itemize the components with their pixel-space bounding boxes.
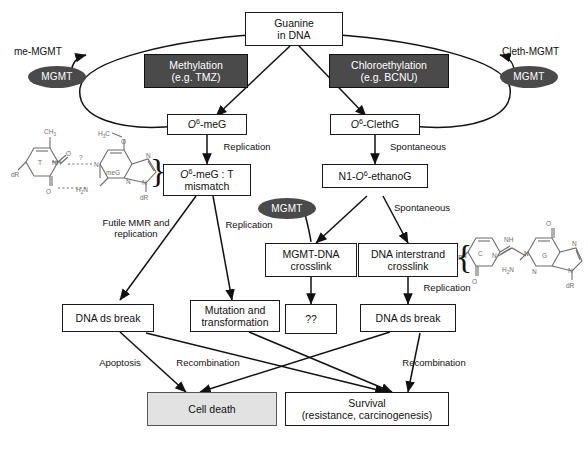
chem-left-methoxy-o: O (121, 138, 126, 145)
ethanog-pre: N1- (339, 170, 356, 182)
node-unknown: ?? (285, 304, 337, 334)
futile-mmr-line2: replication (114, 228, 157, 239)
mgmt-middle-label: MGMT (271, 203, 302, 215)
node-methylation: Methylation (e.g. TMZ) (144, 54, 248, 88)
enzyme-mgmt-right: MGMT (500, 66, 558, 88)
chem-right-brace: { (456, 238, 472, 276)
mgmt-crosslink-line1: MGMT-DNA (282, 248, 339, 260)
chem-left-methyl: CH3 (44, 128, 56, 137)
node-mgmt-dna-crosslink: MGMT-DNA crosslink (265, 243, 357, 277)
chem-left-methoxy: H3C (98, 130, 110, 139)
mutation-line2: transformation (201, 316, 268, 328)
edge-label-futile-mmr: Futile MMR and replication (88, 218, 184, 240)
chem-left-n3: N (126, 178, 131, 185)
chem-right-n9: N (568, 267, 573, 274)
chem-right-nh: NH (504, 236, 514, 243)
chem-right-cytosine: C (478, 250, 483, 257)
chem-left-thymine: T (38, 159, 42, 166)
chem-left-query: ? (79, 154, 83, 161)
ethanog-label: N1-O6-ethanoG (339, 170, 412, 182)
chem-right-oxygen-c: O (472, 278, 477, 285)
mgmt-crosslink-line2: crosslink (291, 260, 332, 272)
chem-right-svg: NH C N N dR O N G O N N dR H2N N (458, 218, 586, 312)
chem-right-n1c: N (492, 252, 497, 259)
chem-left-oxygen-top: O (66, 150, 71, 157)
survival-line1: Survival (348, 397, 385, 409)
mutation-line1: Mutation and (205, 304, 266, 316)
guanine-line2: in DNA (277, 29, 310, 41)
edge-label-apoptosis: Apoptosis (86, 358, 154, 369)
chem-left-amine: H2N (76, 186, 88, 195)
ethanog-o: O (356, 170, 364, 182)
interstrand-line1: DNA interstrand (371, 248, 445, 260)
o6-meg-o: O (188, 118, 196, 130)
chem-structure-interstrand-crosslink: NH C N N dR O N G O N N dR H2N N (458, 218, 586, 312)
chloroethylation-line1: Chloroethylation (351, 59, 427, 71)
chem-right-amine: H2N (502, 266, 514, 275)
chem-right-guanine: G (542, 252, 547, 259)
node-cell-death: Cell death (147, 392, 277, 426)
chem-right-n1g: N (524, 250, 529, 257)
chem-left-oxygen-bottom: O (46, 188, 51, 195)
chem-right-oxygen-g: O (546, 220, 551, 227)
label-cleth-mgmt: Cleth-MGMT (502, 46, 559, 57)
label-me-mgmt: me-MGMT (14, 46, 62, 57)
chem-right-dr-right: dR (566, 282, 575, 289)
chloroethylation-line2: (e.g. BCNU) (360, 71, 417, 83)
node-o6-clethg: O6-ClethG (330, 114, 420, 135)
enzyme-mgmt-left: MGMT (28, 66, 86, 88)
guanine-line1: Guanine (274, 17, 314, 29)
chem-left-brace: } (150, 152, 166, 190)
o6-clethg-suffix: -ClethG (363, 118, 399, 130)
node-n1-o6-ethanog: N1-O6-ethanoG (322, 164, 428, 188)
chem-left-dr: dR (11, 171, 20, 178)
methylation-line1: Methylation (169, 59, 223, 71)
node-guanine-in-dna: Guanine in DNA (245, 12, 343, 46)
o6-clethg-label: O6-ClethG (351, 118, 399, 130)
ethanog-suffix: -ethanoG (368, 170, 412, 182)
node-o6-meg: O6-meG (167, 114, 247, 135)
interstrand-line2: crosslink (388, 260, 429, 272)
edge-label-recombination-right: Recombination (388, 358, 480, 369)
node-dna-ds-break-left: DNA ds break (62, 304, 154, 332)
node-dna-ds-break-right: DNA ds break (360, 304, 456, 332)
chem-left-meg: meG (106, 169, 120, 176)
chem-right-n3: N (532, 268, 537, 275)
edge-label-replication-left: Replication (210, 142, 284, 153)
diagram-canvas: Guanine in DNA Methylation (e.g. TMZ) Ch… (0, 0, 588, 452)
chem-left-n1: N (94, 161, 99, 168)
o6-meg-suffix: -meG (200, 118, 226, 130)
edge-label-recombination-left: Recombination (162, 358, 254, 369)
chem-right-n7: N (572, 240, 577, 247)
mgmt-left-label: MGMT (41, 71, 72, 83)
edge-label-spontaneous-right: Spontaneous (378, 142, 458, 153)
edge-label-spontaneous-mid: Spontaneous (382, 203, 462, 214)
mismatch-line2: mismatch (185, 180, 230, 192)
chem-left-svg: CH3 O T NH dR O ? H2N H3C O N meG N N N … (8, 122, 158, 214)
mismatch-line1: O6-meG : T (180, 168, 233, 180)
node-chloroethylation: Chloroethylation (e.g. BCNU) (329, 54, 449, 88)
chem-left-nh: NH (52, 159, 62, 166)
edge-label-replication-mid: Replication (212, 220, 286, 231)
chem-left-dr-right: dR (140, 194, 149, 201)
o6-clethg-o: O (351, 118, 359, 130)
enzyme-mgmt-middle: MGMT (258, 198, 316, 219)
node-mutation-transformation: Mutation and transformation (190, 300, 280, 332)
futile-mmr-line1: Futile MMR and (102, 217, 169, 228)
chem-left-n9: N (142, 179, 147, 186)
node-dna-interstrand-crosslink: DNA interstrand crosslink (358, 243, 458, 277)
survival-line2: (resistance, carcinogenesis) (302, 409, 433, 421)
chem-structure-meg-t-basepair: CH3 O T NH dR O ? H2N H3C O N meG N N N … (8, 122, 158, 214)
node-meg-t-mismatch: O6-meG : T mismatch (163, 164, 251, 196)
o6-meg-label: O6-meG (188, 118, 226, 130)
node-survival: Survival (resistance, carcinogenesis) (285, 392, 449, 426)
methylation-line2: (e.g. TMZ) (172, 71, 221, 83)
mgmt-right-label: MGMT (513, 71, 544, 83)
mismatch-mid: -meG : T (192, 168, 233, 180)
